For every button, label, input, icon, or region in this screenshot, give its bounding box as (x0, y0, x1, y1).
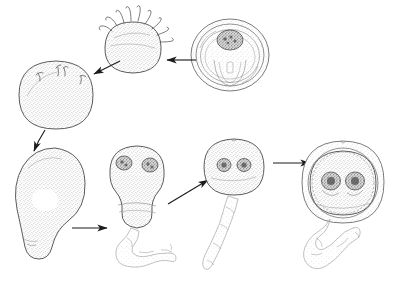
stage-encysted-cell (191, 19, 269, 91)
stage-pear-shaped-cell (15, 148, 85, 259)
trailing-tail (304, 219, 361, 269)
stage-binucleate-cyst (302, 141, 384, 269)
stage-flagellated-round-cell (99, 6, 173, 74)
arrow-stage5-to-stage6 (168, 180, 208, 204)
stage-smooth-round-cell (19, 61, 93, 129)
trailing-tail (116, 228, 176, 267)
stage-binucleate-round-cell (203, 139, 264, 269)
life-cycle-diagram (0, 0, 415, 284)
stage-binucleate-elongate-cell (110, 146, 176, 267)
cyst-inner-nucleus (217, 30, 243, 50)
arrow-stage3-to-stage4 (34, 130, 45, 151)
trailing-tail (203, 196, 238, 269)
